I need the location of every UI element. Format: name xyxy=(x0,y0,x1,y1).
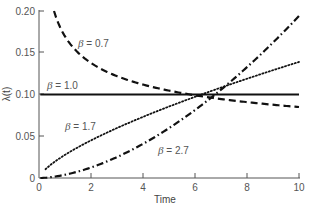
x-axis-title: Time xyxy=(154,194,176,205)
x-tick-label: 0 xyxy=(36,182,42,193)
x-tick-label: 4 xyxy=(140,182,146,193)
y-tick-label: 0.05 xyxy=(16,131,36,142)
series-line-beta-0-7 xyxy=(54,11,299,107)
y-tick-label: 0.15 xyxy=(16,47,36,58)
x-tick-label: 10 xyxy=(293,182,305,193)
label-beta-2-7: β = 2.7 xyxy=(157,144,189,156)
y-tick-label: 0.20 xyxy=(16,6,36,17)
x-tick-label: 6 xyxy=(192,182,198,193)
y-tick-label: 0.10 xyxy=(16,89,36,100)
y-axis-title: λ(t) xyxy=(1,87,12,101)
x-tick-label: 2 xyxy=(88,182,94,193)
y-tick-labels: 0.20 0.15 0.10 0.05 0 xyxy=(16,6,36,184)
label-beta-1-0: β = 1.0 xyxy=(46,79,78,91)
y-tick-label: 0 xyxy=(29,173,35,184)
x-tick-labels: 0 2 4 6 8 10 xyxy=(36,182,305,193)
hazard-rate-chart: 0.20 0.15 0.10 0.05 0 0 2 4 6 8 10 Time … xyxy=(0,0,310,209)
x-tick-label: 8 xyxy=(244,182,250,193)
label-beta-0-7: β = 0.7 xyxy=(77,37,109,49)
label-beta-1-7: β = 1.7 xyxy=(64,120,96,132)
